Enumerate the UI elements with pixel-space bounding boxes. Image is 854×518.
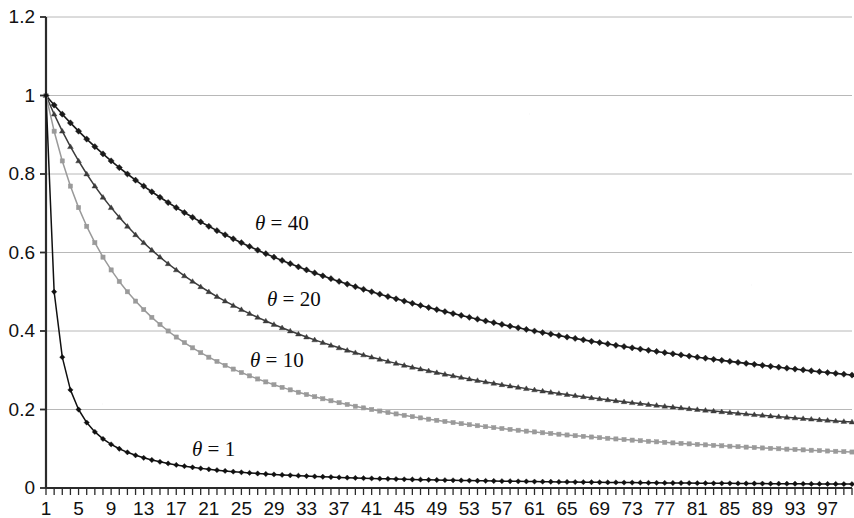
data-point-marker	[157, 459, 162, 464]
data-point-marker	[353, 475, 358, 480]
data-point-marker	[630, 480, 635, 485]
data-point-marker	[303, 267, 309, 273]
data-point-marker	[475, 478, 480, 483]
data-point-marker	[198, 466, 203, 471]
data-point-marker	[263, 251, 269, 257]
y-axis-tick-label: 0	[24, 478, 35, 497]
data-point-marker	[508, 427, 512, 431]
data-point-marker	[417, 302, 423, 308]
data-point-marker	[68, 387, 73, 392]
theta-value: = 10	[260, 348, 303, 372]
data-point-marker	[638, 480, 643, 485]
data-point-marker	[638, 439, 642, 443]
data-point-marker	[336, 475, 341, 480]
data-point-marker	[51, 289, 56, 294]
data-point-marker	[719, 481, 724, 486]
data-point-marker	[247, 470, 252, 475]
data-point-marker	[621, 343, 627, 349]
data-point-marker	[345, 402, 349, 406]
series-line	[46, 96, 852, 453]
data-point-marker	[336, 278, 342, 284]
data-point-marker	[345, 475, 350, 480]
data-point-marker	[849, 372, 854, 378]
data-point-marker	[507, 479, 512, 484]
data-point-marker	[386, 410, 390, 414]
data-point-marker	[654, 480, 659, 485]
data-point-marker	[711, 481, 716, 486]
series-4	[43, 93, 854, 487]
data-point-marker	[337, 401, 341, 405]
data-point-marker	[434, 306, 440, 312]
data-point-marker	[182, 464, 187, 469]
y-axis-tick-label: 0.8	[9, 164, 35, 183]
data-point-marker	[833, 370, 839, 376]
data-point-marker	[646, 480, 651, 485]
data-point-marker	[68, 144, 74, 149]
data-point-marker	[842, 450, 846, 454]
data-point-marker	[466, 314, 472, 320]
data-point-marker	[141, 455, 146, 460]
data-point-marker	[580, 337, 586, 343]
data-point-marker	[409, 300, 415, 306]
data-point-marker	[565, 433, 569, 437]
data-point-marker	[418, 477, 423, 482]
data-point-marker	[484, 425, 488, 429]
data-point-marker	[736, 445, 740, 449]
data-point-marker	[369, 289, 375, 295]
theta-value: = 1	[202, 437, 235, 461]
data-point-marker	[320, 273, 326, 279]
data-point-marker	[759, 362, 765, 368]
data-point-marker	[653, 348, 659, 354]
data-point-marker	[59, 128, 65, 133]
data-point-marker	[320, 474, 325, 479]
data-point-marker	[531, 328, 537, 334]
data-point-marker	[312, 474, 317, 479]
data-point-marker	[68, 184, 72, 188]
data-point-marker	[76, 206, 80, 210]
data-point-marker	[263, 471, 268, 476]
data-point-marker	[174, 335, 178, 339]
series-line	[46, 96, 852, 423]
series-3	[44, 93, 854, 454]
data-point-marker	[572, 335, 578, 341]
data-point-marker	[678, 352, 684, 358]
data-point-marker	[589, 480, 594, 485]
data-point-marker	[678, 480, 683, 485]
data-point-marker	[450, 310, 456, 316]
data-point-marker	[377, 476, 382, 481]
theta-symbol: θ	[192, 437, 202, 461]
data-point-marker	[703, 481, 708, 486]
theta-symbol: θ	[267, 287, 277, 311]
series-annotation-2: θ = 20	[267, 287, 321, 312]
data-point-marker	[230, 236, 236, 242]
data-point-marker	[117, 279, 121, 283]
data-point-marker	[370, 407, 374, 411]
data-point-marker	[434, 477, 439, 482]
data-point-marker	[629, 345, 635, 351]
data-point-marker	[523, 326, 529, 332]
data-point-marker	[101, 255, 105, 259]
data-point-marker	[272, 383, 276, 387]
theta-symbol: θ	[255, 211, 265, 235]
data-point-marker	[418, 416, 422, 420]
data-point-marker	[687, 480, 692, 485]
data-point-marker	[207, 355, 211, 359]
data-point-marker	[483, 318, 489, 324]
data-point-marker	[540, 329, 546, 335]
data-point-marker	[679, 441, 683, 445]
data-point-marker	[361, 476, 366, 481]
data-point-marker	[613, 342, 619, 348]
data-point-marker	[532, 430, 536, 434]
data-point-marker	[824, 369, 830, 375]
data-point-marker	[288, 473, 293, 478]
data-point-marker	[182, 341, 186, 345]
data-point-marker	[295, 264, 301, 270]
data-point-marker	[630, 438, 634, 442]
data-point-marker	[622, 437, 626, 441]
y-axis-tick-label: 1.2	[9, 7, 35, 26]
data-point-marker	[646, 439, 650, 443]
data-point-marker	[60, 355, 65, 360]
theta-value: = 40	[265, 211, 308, 235]
data-point-marker	[369, 476, 374, 481]
data-point-marker	[817, 481, 822, 486]
